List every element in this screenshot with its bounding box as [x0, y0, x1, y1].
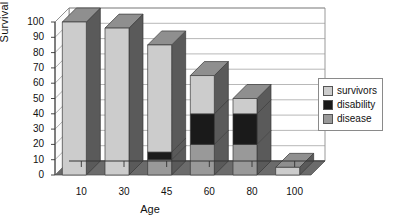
legend-item: disability	[323, 98, 377, 111]
legend-swatch-icon	[323, 114, 333, 124]
x-axis-tick-label: 45	[150, 186, 184, 197]
y-axis-tick-label: 80	[22, 49, 44, 57]
y-axis-tick-label: 10	[22, 156, 44, 164]
y-axis-tick-label: 20	[22, 140, 44, 148]
x-axis-tick-label: 30	[107, 186, 141, 197]
x-axis-tick-label: 60	[192, 186, 226, 197]
y-axis-tick-label: 90	[22, 33, 44, 41]
x-axis-title: Age	[0, 203, 300, 215]
y-axis-tick-label: 70	[22, 64, 44, 72]
y-axis-tick-label: 30	[22, 125, 44, 133]
legend-swatch-icon	[323, 100, 333, 110]
y-axis-tick-label: 40	[22, 110, 44, 118]
chart-legend: survivorsdisabilitydisease	[318, 78, 383, 131]
legend-item: disease	[323, 112, 377, 125]
x-axis-tick-label: 10	[64, 186, 98, 197]
y-axis-tick-label: 50	[22, 95, 44, 103]
x-axis-tick-label: 100	[278, 186, 312, 197]
legend-swatch-icon	[323, 86, 333, 96]
chart-container: Survival 1009080706050403020100 10304560…	[0, 0, 401, 220]
y-axis-title: Survival	[0, 0, 10, 62]
y-axis-tick-label: 0	[22, 171, 44, 179]
x-axis-tick-label: 80	[235, 186, 269, 197]
y-axis-ticks: 1009080706050403020100	[20, 0, 44, 220]
y-axis-tick-label: 100	[22, 18, 44, 26]
legend-item-label: disability	[337, 99, 375, 110]
legend-item-label: disease	[337, 113, 371, 124]
legend-item-label: survivors	[337, 85, 377, 96]
y-axis-tick-label: 60	[22, 79, 44, 87]
legend-item: survivors	[323, 84, 377, 97]
